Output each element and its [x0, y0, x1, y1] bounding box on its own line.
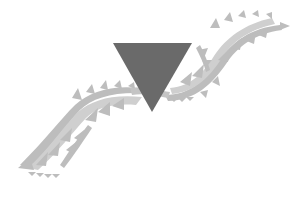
emblem-canvas — [0, 0, 298, 198]
tribal-wave-band-lower — [18, 80, 142, 178]
emblem-svg — [0, 0, 298, 198]
